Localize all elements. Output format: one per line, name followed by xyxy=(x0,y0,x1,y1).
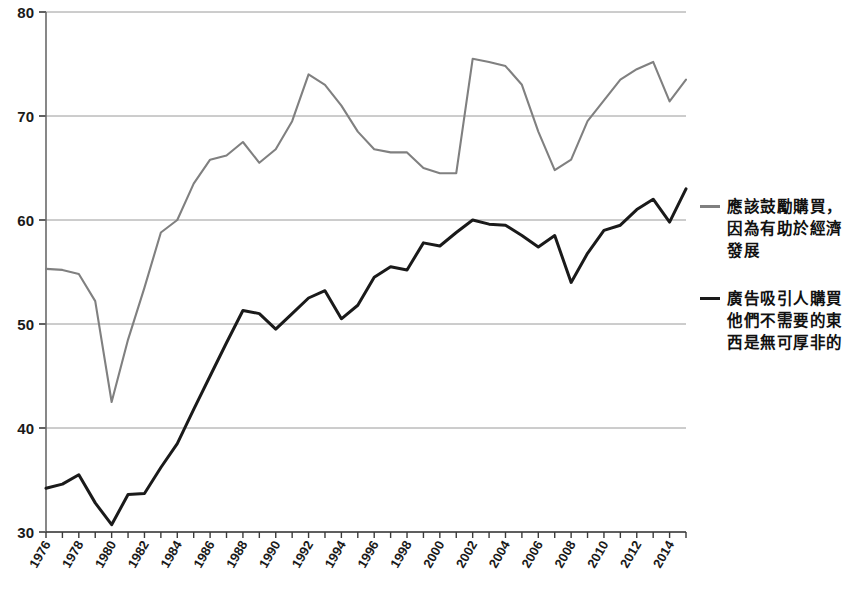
legend-entry-advertising-ok: 廣告吸引人購買他們不需要的東西是無可厚非的 xyxy=(700,288,859,354)
xtick-label: 2002 xyxy=(453,538,480,571)
xtick-label: 1990 xyxy=(256,538,283,571)
ytick-label: 30 xyxy=(17,524,34,541)
chart-legend: 應該鼓勵購買，因為有助於經濟發展 廣告吸引人購買他們不需要的東西是無可厚非的 xyxy=(700,196,859,380)
legend-label-encourage-buying: 應該鼓勵購買，因為有助於經濟發展 xyxy=(727,196,855,262)
series-line-1 xyxy=(46,189,686,525)
legend-swatch-gray-icon xyxy=(700,205,720,208)
chart-plot-area: 3040506070801976197819801982198419861988… xyxy=(0,0,700,595)
xtick-label: 1986 xyxy=(190,538,217,571)
xtick-label: 2008 xyxy=(551,538,578,571)
ytick-label: 50 xyxy=(17,316,34,333)
xtick-label: 1976 xyxy=(26,538,53,571)
xtick-label: 2006 xyxy=(518,538,545,571)
xtick-label: 1988 xyxy=(223,538,250,571)
xtick-label: 1984 xyxy=(157,537,185,570)
xtick-label: 1994 xyxy=(322,537,350,570)
line-chart: 3040506070801976197819801982198419861988… xyxy=(0,0,700,595)
xtick-label: 2000 xyxy=(420,538,447,571)
xtick-label: 2012 xyxy=(617,538,644,571)
xtick-label: 1992 xyxy=(289,538,316,571)
xtick-label: 1996 xyxy=(354,538,381,571)
xtick-label: 1982 xyxy=(125,538,152,571)
legend-swatch-black-icon xyxy=(700,297,720,300)
xtick-label: 2014 xyxy=(650,537,678,570)
ytick-label: 40 xyxy=(17,420,34,437)
series-line-0 xyxy=(46,59,686,402)
xtick-label: 2004 xyxy=(486,537,514,570)
ytick-label: 70 xyxy=(17,108,34,125)
ytick-label: 80 xyxy=(17,4,34,21)
ytick-label: 60 xyxy=(17,212,34,229)
xtick-label: 1978 xyxy=(59,538,86,571)
chart-root: 3040506070801976197819801982198419861988… xyxy=(0,0,859,595)
legend-label-advertising-ok: 廣告吸引人購買他們不需要的東西是無可厚非的 xyxy=(727,288,855,354)
xtick-label: 1980 xyxy=(92,538,119,571)
xtick-label: 1998 xyxy=(387,538,414,571)
legend-entry-encourage-buying: 應該鼓勵購買，因為有助於經濟發展 xyxy=(700,196,859,262)
xtick-label: 2010 xyxy=(584,538,611,571)
